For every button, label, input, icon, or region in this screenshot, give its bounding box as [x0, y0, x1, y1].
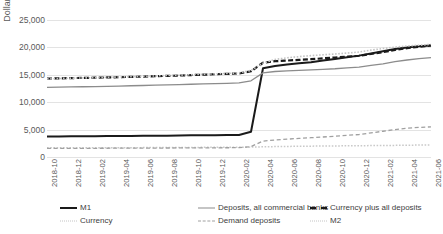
x-axis-tick-label: 2018-10	[50, 159, 59, 187]
x-axis-tick-label: 2021-04	[410, 159, 419, 187]
legend-item[interactable]: M2	[310, 216, 341, 226]
legend-label: Currency	[80, 216, 112, 226]
series-lines	[47, 20, 431, 157]
legend-swatch-icon	[198, 204, 215, 212]
x-axis-tick-label: 2019-08	[170, 159, 179, 187]
legend-item[interactable]: M1	[60, 203, 91, 213]
x-axis-tick-label: 2020-12	[362, 159, 371, 187]
series-line	[47, 45, 431, 136]
x-axis-tick-label: 2019-10	[194, 159, 203, 187]
legend-swatch-icon	[60, 204, 77, 212]
legend-swatch-icon	[310, 204, 327, 212]
chart-legend: M1CurrencyDeposits, all commercial banks…	[60, 203, 432, 233]
x-axis-tick-label: 2020-10	[338, 159, 347, 187]
legend-item[interactable]: Demand deposits	[198, 216, 280, 226]
x-axis-tick-label: 2020-06	[290, 159, 299, 187]
legend-swatch-icon	[198, 217, 215, 225]
x-axis-tick-label: 2019-12	[218, 159, 227, 187]
x-axis-tick-labels: 2018-102018-122019-022019-042019-062019-…	[47, 159, 431, 205]
plot-area	[47, 20, 431, 157]
y-axis-tick-label: 20,000	[1, 42, 45, 52]
y-axis-tick-labels: 05,00010,00015,00020,00025,000	[0, 20, 45, 157]
x-axis-tick-label: 2020-08	[314, 159, 323, 187]
x-axis-tick-label: 2020-04	[266, 159, 275, 187]
x-axis-tick-label: 2020-02	[242, 159, 251, 187]
y-axis-tick-label: 15,000	[1, 70, 45, 80]
legend-item[interactable]: Currency plus all deposits	[310, 203, 422, 213]
x-axis-tick-label: 2019-04	[122, 159, 131, 187]
legend-item[interactable]: Deposits, all commercial banks	[198, 203, 328, 213]
x-axis-tick-label: 2021-06	[434, 159, 443, 187]
series-line	[47, 44, 431, 79]
x-axis-tick-label: 2018-12	[74, 159, 83, 187]
x-axis-tick-label: 2019-02	[98, 159, 107, 187]
legend-label: Demand deposits	[218, 216, 280, 226]
x-axis-tick-label: 2019-06	[146, 159, 155, 187]
y-axis-tick-label: 10,000	[1, 97, 45, 107]
x-axis-tick-label: 2021-02	[386, 159, 395, 187]
legend-label: M2	[330, 216, 341, 226]
legend-label: Currency plus all deposits	[330, 203, 422, 213]
legend-label: M1	[80, 203, 91, 213]
y-axis-tick-label: 25,000	[1, 15, 45, 25]
legend-swatch-icon	[310, 217, 327, 225]
y-axis-tick-label: 0	[1, 152, 45, 162]
y-axis-tick-label: 5,000	[1, 125, 45, 135]
legend-swatch-icon	[60, 217, 77, 225]
legend-item[interactable]: Currency	[60, 216, 112, 226]
gridline	[47, 157, 431, 158]
